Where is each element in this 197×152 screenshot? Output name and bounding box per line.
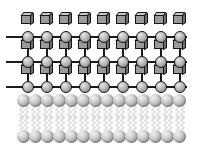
lipid-tail-chain-lower-25 xyxy=(168,116,173,130)
lattice-node-sphere-7-1 xyxy=(155,56,167,68)
lattice-node-sphere-7-0 xyxy=(155,31,167,43)
lattice-cube-4-0 xyxy=(97,12,108,23)
lipid-tail-chain-lower-3 xyxy=(36,116,41,130)
cube-side-face xyxy=(182,12,186,25)
lattice-cube-6-0 xyxy=(135,12,146,23)
lattice-node-sphere-2-0 xyxy=(60,31,72,43)
lattice-node-sphere-3-0 xyxy=(79,31,91,43)
cube-side-face xyxy=(30,12,34,25)
lipid-tail-chain-lower-15 xyxy=(108,116,113,130)
lipid-tail-chain-lower-19 xyxy=(132,116,137,130)
lipid-tail-chain-lower-21 xyxy=(144,116,149,130)
lipid-tail-chain-lower-1 xyxy=(24,116,29,130)
molecular-schematic-figure xyxy=(0,0,197,152)
lipid-head-group-upper-13 xyxy=(173,94,186,107)
lipid-tail-chain-lower-11 xyxy=(84,116,89,130)
lattice-node-sphere-4-1 xyxy=(98,56,110,68)
lattice-node-sphere-1-1 xyxy=(41,56,53,68)
cube-side-face xyxy=(144,12,148,25)
crystalline-lattice-region xyxy=(0,0,197,92)
cube-side-face xyxy=(106,12,110,25)
lattice-node-sphere-4-0 xyxy=(98,31,110,43)
lipid-tail-chain-lower-23 xyxy=(156,116,161,130)
lattice-node-sphere-6-0 xyxy=(136,31,148,43)
lipid-tail-chain-lower-9 xyxy=(72,116,77,130)
cube-side-face xyxy=(87,12,91,25)
lipid-tail-chain-lower-17 xyxy=(120,116,125,130)
lipid-head-group-lower-13 xyxy=(173,130,186,143)
lattice-cube-2-0 xyxy=(59,12,70,23)
lattice-node-sphere-6-1 xyxy=(136,56,148,68)
lattice-node-sphere-8-0 xyxy=(174,31,186,43)
lattice-cube-7-0 xyxy=(154,12,165,23)
lipid-tail-chain-lower-5 xyxy=(48,116,53,130)
lattice-node-sphere-0-1 xyxy=(22,56,34,68)
lipid-tail-chain-lower-7 xyxy=(60,116,65,130)
lattice-node-sphere-3-1 xyxy=(79,56,91,68)
lattice-node-sphere-8-1 xyxy=(174,56,186,68)
lattice-cube-5-0 xyxy=(116,12,127,23)
lipid-bilayer-region xyxy=(0,90,197,152)
lattice-node-sphere-0-0 xyxy=(22,31,34,43)
cube-side-face xyxy=(68,12,72,25)
lattice-cube-1-0 xyxy=(40,12,51,23)
lipid-tail-chain-lower-13 xyxy=(96,116,101,130)
lattice-cube-8-0 xyxy=(173,12,184,23)
lattice-cube-0-0 xyxy=(21,12,32,23)
cube-side-face xyxy=(125,12,129,25)
lipid-tail-chain-lower-27 xyxy=(180,116,185,130)
lattice-node-sphere-1-0 xyxy=(41,31,53,43)
lattice-node-sphere-2-1 xyxy=(60,56,72,68)
cube-side-face xyxy=(163,12,167,25)
lattice-node-sphere-5-1 xyxy=(117,56,129,68)
lattice-node-sphere-5-0 xyxy=(117,31,129,43)
lattice-cube-3-0 xyxy=(78,12,89,23)
cube-side-face xyxy=(49,12,53,25)
